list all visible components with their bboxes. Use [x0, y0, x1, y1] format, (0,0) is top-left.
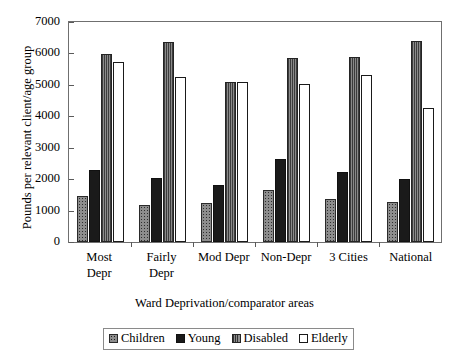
bar-group: [317, 22, 379, 242]
bar-group: [193, 22, 255, 242]
x-axis-category-label-line: Depr: [68, 265, 130, 281]
bar-disabled: [101, 54, 112, 242]
x-axis-category-label: FairlyDepr: [130, 249, 192, 281]
bar-disabled: [349, 57, 360, 242]
bar-group: [69, 22, 131, 242]
bar-young: [213, 185, 224, 243]
bar-young: [89, 170, 100, 242]
bar-elderly: [361, 75, 372, 242]
x-axis-category-label-line: National: [380, 249, 442, 265]
legend-swatch-children-icon: [109, 334, 118, 343]
plot-area: 01000200030004000500060007000: [68, 21, 442, 243]
x-axis-category-label-line: Fairly: [130, 249, 192, 265]
x-axis-tick-mark: [379, 242, 380, 247]
x-axis-category-label-line: Non-Depr: [255, 249, 317, 265]
y-axis-tick-label: 5000: [35, 77, 60, 92]
legend-label: Young: [188, 331, 221, 346]
y-axis-tick-label: 2000: [35, 171, 60, 186]
bar-disabled: [411, 41, 422, 242]
x-axis-tick-mark: [255, 242, 256, 247]
bar-group: [379, 22, 441, 242]
bar-elderly: [299, 84, 310, 242]
bar-group: [255, 22, 317, 242]
bar-young: [399, 179, 410, 242]
bar-elderly: [113, 62, 124, 242]
x-axis-category-label: Mod Depr: [193, 249, 255, 281]
bar-disabled: [287, 58, 298, 242]
x-axis-title: Ward Deprivation/comparator areas: [0, 296, 449, 311]
bar-young: [151, 178, 162, 242]
x-axis-category-label: 3 Cities: [317, 249, 379, 281]
bar-young: [275, 159, 286, 242]
legend-swatch-disabled-icon: [232, 334, 241, 343]
bar-children: [77, 196, 88, 243]
bar-children: [201, 203, 212, 242]
y-axis-tick-label: 4000: [35, 108, 60, 123]
bar-children: [387, 202, 398, 242]
y-axis-tick-label: 6000: [35, 45, 60, 60]
x-axis-category-label: National: [380, 249, 442, 281]
legend-swatch-young-icon: [176, 334, 185, 343]
legend-item-disabled: Disabled: [232, 331, 288, 346]
bar-group: [131, 22, 193, 242]
bar-elderly: [237, 82, 248, 242]
legend-label: Children: [121, 331, 165, 346]
y-axis-tick-label: 1000: [35, 203, 60, 218]
bar-disabled: [225, 82, 236, 242]
bar-young: [337, 172, 348, 242]
x-axis-category-label-line: Most: [68, 249, 130, 265]
x-axis-category-label-line: 3 Cities: [317, 249, 379, 265]
legend-item-children: Children: [109, 331, 165, 346]
x-axis-tick-mark: [193, 242, 194, 247]
y-axis-tick-label: 7000: [35, 14, 60, 29]
x-axis-category-label-line: Mod Depr: [193, 249, 255, 265]
legend-label: Disabled: [244, 331, 288, 346]
bar-groups: [69, 22, 441, 242]
x-axis-category-label: Non-Depr: [255, 249, 317, 281]
x-axis-category-labels: MostDeprFairlyDeprMod DeprNon-Depr3 Citi…: [68, 249, 442, 281]
bar-chart-figure: Pounds per relevant client/age group 010…: [0, 0, 449, 363]
bar-elderly: [423, 108, 434, 243]
y-axis-title: Pounds per relevant client/age group: [20, 18, 35, 258]
legend-swatch-elderly-icon: [299, 334, 308, 343]
legend-label: Elderly: [311, 331, 348, 346]
x-axis-tick-mark: [131, 242, 132, 247]
legend-item-elderly: Elderly: [299, 331, 348, 346]
legend-item-young: Young: [176, 331, 221, 346]
x-axis-category-label-line: Depr: [130, 265, 192, 281]
x-axis-tick-mark: [317, 242, 318, 247]
y-axis-tick-label: 3000: [35, 140, 60, 155]
y-axis-tick-label: 0: [54, 234, 60, 249]
bar-children: [139, 205, 150, 242]
bar-children: [263, 190, 274, 242]
bar-disabled: [163, 42, 174, 243]
chart-legend: ChildrenYoungDisabledElderly: [103, 328, 354, 350]
bar-elderly: [175, 77, 186, 242]
y-axis-tick-mark: [69, 242, 74, 243]
bar-children: [325, 199, 336, 242]
x-axis-category-label: MostDepr: [68, 249, 130, 281]
